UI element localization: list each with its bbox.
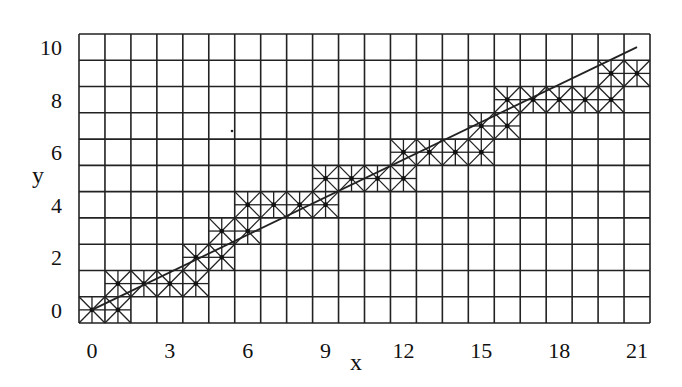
- refined-cell: [442, 139, 468, 165]
- node-dot: [401, 176, 406, 181]
- refined-cell: [365, 165, 391, 191]
- x-axis-label: x: [350, 349, 362, 375]
- node-dot: [167, 281, 172, 286]
- x-tick-label: 3: [164, 338, 175, 363]
- node-dot: [323, 202, 328, 207]
- node-dot: [557, 97, 562, 102]
- refined-cell: [598, 87, 624, 113]
- node-dot: [427, 150, 432, 155]
- node-dot: [609, 97, 614, 102]
- refined-cell: [468, 139, 494, 165]
- refined-cell: [494, 113, 520, 139]
- x-tick-label: 18: [548, 338, 570, 363]
- node-dot: [479, 124, 484, 129]
- node-dot: [193, 281, 198, 286]
- node-dot: [271, 202, 276, 207]
- refined-cell: [261, 192, 287, 218]
- refined-cell: [390, 139, 416, 165]
- x-axis-ticks: 036912151821: [86, 338, 648, 363]
- refined-cell: [546, 87, 572, 113]
- node-dot: [505, 124, 510, 129]
- refined-cell: [624, 60, 650, 86]
- x-tick-label: 0: [86, 338, 97, 363]
- node-dot: [635, 71, 640, 76]
- refined-cell: [572, 87, 598, 113]
- x-tick-label: 6: [242, 338, 253, 363]
- x-tick-label: 21: [626, 338, 648, 363]
- refined-cell: [390, 165, 416, 191]
- refined-cell: [313, 165, 339, 191]
- refined-cell: [183, 270, 209, 296]
- refined-cell: [183, 244, 209, 270]
- x-tick-label: 9: [320, 338, 331, 363]
- y-tick-label: 2: [51, 245, 62, 270]
- y-tick-label: 6: [51, 140, 62, 165]
- node-dot: [453, 150, 458, 155]
- refinement-diagram: 036912151821 0246810 x y: [0, 0, 682, 387]
- refined-cell: [131, 270, 157, 296]
- node-dot: [583, 97, 588, 102]
- y-tick-label: 0: [51, 298, 62, 323]
- node-dot: [323, 176, 328, 181]
- node-dot: [297, 202, 302, 207]
- refined-cell: [339, 165, 365, 191]
- y-axis-label: y: [32, 162, 44, 188]
- refined-cell: [313, 192, 339, 218]
- y-tick-label: 4: [51, 193, 62, 218]
- node-dot: [401, 150, 406, 155]
- node-dot: [609, 71, 614, 76]
- node-dot: [245, 202, 250, 207]
- y-tick-label: 10: [40, 35, 62, 60]
- node-dot: [116, 281, 121, 286]
- node-dot: [375, 176, 380, 181]
- stray-dot: [231, 130, 234, 133]
- node-dot: [479, 150, 484, 155]
- node-dot: [349, 176, 354, 181]
- node-dot: [219, 255, 224, 260]
- y-tick-label: 8: [51, 88, 62, 113]
- x-tick-label: 12: [392, 338, 414, 363]
- node-dot: [505, 97, 510, 102]
- refined-cell: [209, 218, 235, 244]
- refined-cell: [520, 87, 546, 113]
- node-dot: [219, 229, 224, 234]
- refined-cell: [235, 192, 261, 218]
- x-tick-label: 15: [470, 338, 492, 363]
- node-dot: [116, 307, 121, 312]
- refined-cell: [105, 297, 131, 323]
- node-dot: [245, 229, 250, 234]
- refined-cell: [157, 270, 183, 296]
